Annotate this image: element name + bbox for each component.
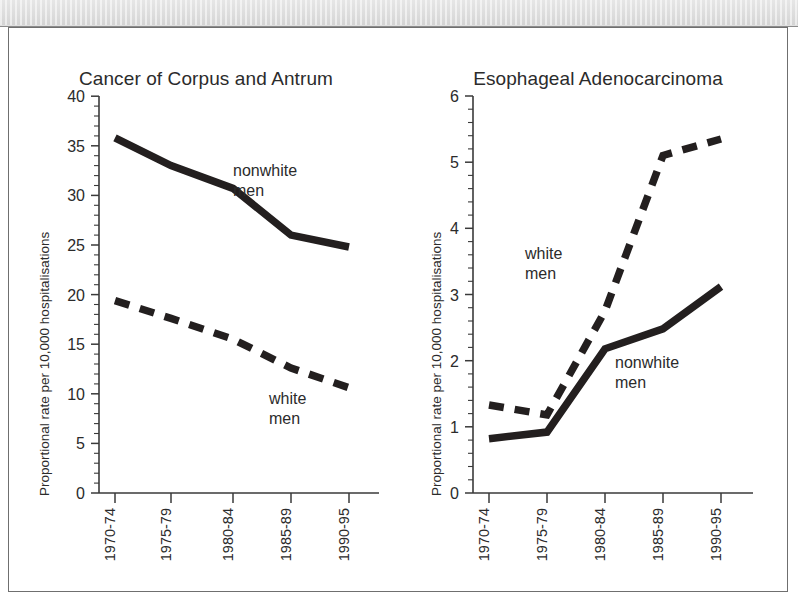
x-tick-label: 1990-95 xyxy=(336,508,352,561)
series-label-nonwhite-men-left: nonwhite men xyxy=(233,162,297,199)
x-ticks-left xyxy=(115,493,349,503)
series-label-white-men-right: white men xyxy=(524,245,562,282)
series-label-line-1: white xyxy=(268,390,306,407)
chart-page: Cancer of Corpus and Antrum Proportional… xyxy=(0,0,798,605)
y-tick-label: 6 xyxy=(450,88,459,105)
series-label-line-2: men xyxy=(615,374,646,391)
series-label-line-1: white xyxy=(524,245,562,262)
chart-panel-left: Cancer of Corpus and Antrum Proportional… xyxy=(11,56,401,596)
y-tick-label: 2 xyxy=(450,353,459,370)
series-line-nonwhite-men-left xyxy=(115,138,349,247)
x-tick-label: 1975-79 xyxy=(158,508,174,561)
series-label-line-2: men xyxy=(525,265,556,282)
series-label-line-2: men xyxy=(269,410,300,427)
figure-frame: Cancer of Corpus and Antrum Proportional… xyxy=(8,27,788,592)
y-ticks-left xyxy=(91,96,99,493)
series-line-white-men-right xyxy=(489,139,721,415)
series-label-line-1: nonwhite xyxy=(233,162,297,179)
x-tick-label: 1980-84 xyxy=(592,508,608,561)
y-tick-label: 5 xyxy=(76,435,85,452)
y-tick-label: 3 xyxy=(450,287,459,304)
y-tick-labels-left: 0 5 10 15 20 25 30 35 40 xyxy=(67,88,85,502)
y-tick-label: 1 xyxy=(450,419,459,436)
x-tick-label: 1970-74 xyxy=(476,508,492,561)
x-tick-labels-left: 1970-74 1975-79 1980-84 1985-89 1990-95 xyxy=(102,508,352,561)
chart-panel-right: Esophageal Adenocarcinoma Proportional r… xyxy=(403,56,793,596)
x-tick-labels-right: 1970-74 1975-79 1980-84 1985-89 1990-95 xyxy=(476,508,724,561)
y-tick-label: 35 xyxy=(67,138,85,155)
y-tick-labels-right: 0 1 2 3 4 5 6 xyxy=(450,88,459,502)
x-tick-label: 1985-89 xyxy=(650,508,666,561)
series-label-nonwhite-men-right: nonwhite men xyxy=(615,354,679,391)
series-label-line-1: nonwhite xyxy=(615,354,679,371)
x-tick-label: 1975-79 xyxy=(534,508,550,561)
y-tick-label: 0 xyxy=(76,485,85,502)
y-tick-label: 40 xyxy=(67,88,85,105)
series-line-white-men-left xyxy=(115,301,349,388)
x-tick-label: 1980-84 xyxy=(220,508,236,561)
series-label-white-men-left: white men xyxy=(268,390,306,427)
x-tick-label: 1970-74 xyxy=(102,508,118,561)
x-tick-label: 1990-95 xyxy=(708,508,724,561)
y-tick-label: 20 xyxy=(67,287,85,304)
series-label-line-2: men xyxy=(233,182,264,199)
x-tick-label: 1985-89 xyxy=(278,508,294,561)
y-tick-label: 5 xyxy=(450,154,459,171)
plot-area-right: 0 1 2 3 4 5 6 1970-74 1975- xyxy=(403,56,793,596)
y-tick-label: 10 xyxy=(67,386,85,403)
y-tick-label: 30 xyxy=(67,187,85,204)
plot-area-left: 0 5 10 15 20 25 30 35 40 xyxy=(11,56,401,596)
y-tick-label: 0 xyxy=(450,485,459,502)
x-ticks-right xyxy=(489,493,721,503)
y-tick-label: 4 xyxy=(450,220,459,237)
y-tick-label: 15 xyxy=(67,336,85,353)
series-line-nonwhite-men-right xyxy=(489,287,721,439)
scan-noise-texture xyxy=(0,0,798,25)
y-tick-label: 25 xyxy=(67,237,85,254)
scan-artifact-band xyxy=(0,0,798,27)
y-ticks-right xyxy=(465,96,473,493)
